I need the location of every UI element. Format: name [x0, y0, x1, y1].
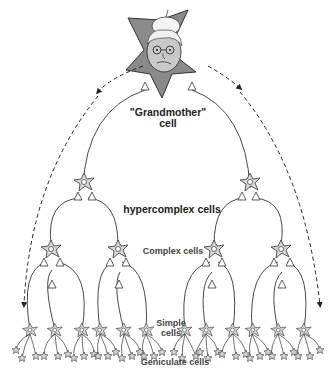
feedback-arrows: [24, 66, 320, 305]
hypercomplex-cells: [74, 173, 260, 191]
grandmother-label-line2: cell: [118, 118, 218, 129]
simple-label-line1: Simple: [152, 318, 190, 328]
simple-label-line2: cells: [152, 328, 190, 338]
complex-cells-label: Complex cells: [138, 246, 208, 256]
grandmother-cell-label: "Grandmother" cell: [118, 107, 218, 129]
hypercomplex-cells-label: hypercomplex cells: [117, 203, 227, 215]
geniculate-cells-label: Geniculate cells: [130, 357, 220, 367]
simple-cells-label: Simple cells: [152, 318, 190, 338]
grandmother-cell: [126, 10, 196, 98]
